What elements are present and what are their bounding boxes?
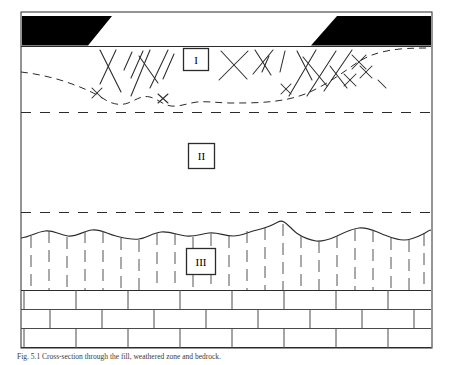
figure-root: I II III Fig. 5.1 Cross-section through … <box>0 0 452 365</box>
zone-1-label-text: I <box>194 54 198 66</box>
figure-background <box>0 0 452 365</box>
zone-2-label-text: II <box>198 150 206 162</box>
zone-3-label: III <box>187 249 216 275</box>
zone-1-label: I <box>184 49 209 71</box>
zone-2-label: II <box>189 144 215 169</box>
zone-3-label-text: III <box>196 256 207 268</box>
geological-cross-section: I II III <box>0 0 452 365</box>
figure-caption: Fig. 5.1 Cross-section through the fill,… <box>17 352 447 362</box>
